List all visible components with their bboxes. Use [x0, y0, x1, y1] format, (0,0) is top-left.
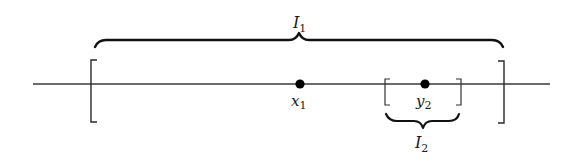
point-y2-dot [420, 79, 429, 88]
point-x1-label: x1 [291, 92, 306, 112]
interval-i1-right-bracket [498, 61, 504, 123]
interval-i2-right-bracket [456, 79, 461, 105]
interval-i1-overbrace [95, 33, 503, 47]
interval-i1-left-bracket [91, 60, 97, 122]
interval-i1-label: I1 [292, 13, 306, 35]
point-y2-label: y2 [415, 92, 431, 112]
interval-i2-label: I2 [414, 133, 428, 155]
number-line-diagram: I1 I2 x1 y2 [0, 0, 576, 157]
diagram-canvas: I1 I2 x1 y2 [0, 0, 576, 157]
point-x1-dot [295, 79, 304, 88]
interval-i2-underbrace [386, 114, 459, 128]
interval-i2-left-bracket [385, 79, 390, 105]
